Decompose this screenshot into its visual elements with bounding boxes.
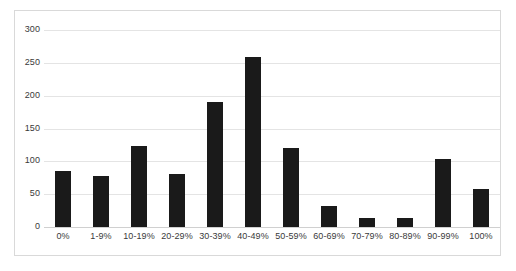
x-tick-label: 80-89%	[386, 231, 424, 242]
bar-slot	[310, 30, 348, 227]
bar-slot	[424, 30, 462, 227]
y-tick-label: 250	[4, 58, 40, 67]
bar[interactable]	[93, 176, 109, 227]
y-tick-label: 200	[4, 91, 40, 100]
bar[interactable]	[321, 206, 337, 227]
bar[interactable]	[169, 174, 185, 227]
bar-slot	[44, 30, 82, 227]
y-tick-label: 50	[4, 189, 40, 198]
bar[interactable]	[131, 146, 147, 227]
bar-chart: 050100150200250300 0%1-9%10-19%20-29%30-…	[0, 0, 516, 271]
y-axis: 050100150200250300	[0, 0, 40, 271]
x-tick-label: 20-29%	[158, 231, 196, 242]
x-axis: 0%1-9%10-19%20-29%30-39%40-49%50-59%60-6…	[44, 231, 500, 249]
bar-slot	[272, 30, 310, 227]
x-tick-label: 40-49%	[234, 231, 272, 242]
x-tick-label: 100%	[462, 231, 500, 242]
bar[interactable]	[245, 57, 261, 227]
gridline-0	[44, 227, 500, 228]
bar[interactable]	[207, 102, 223, 227]
x-tick-label: 60-69%	[310, 231, 348, 242]
bar-slot	[348, 30, 386, 227]
x-tick-label: 10-19%	[120, 231, 158, 242]
x-tick-label: 30-39%	[196, 231, 234, 242]
x-tick-label: 1-9%	[82, 231, 120, 242]
bar-slot	[234, 30, 272, 227]
y-tick-label: 150	[4, 124, 40, 133]
bar[interactable]	[359, 218, 375, 227]
plot-area	[44, 30, 500, 227]
x-tick-label: 70-79%	[348, 231, 386, 242]
x-tick-label: 50-59%	[272, 231, 310, 242]
x-tick-label: 0%	[44, 231, 82, 242]
bar[interactable]	[397, 218, 413, 227]
bar-slot	[82, 30, 120, 227]
y-tick-label: 300	[4, 25, 40, 34]
bar-slot	[120, 30, 158, 227]
x-tick-label: 90-99%	[424, 231, 462, 242]
bar-slot	[462, 30, 500, 227]
y-tick-label: 100	[4, 156, 40, 165]
bar[interactable]	[283, 148, 299, 227]
bar-slot	[196, 30, 234, 227]
bar[interactable]	[55, 171, 71, 227]
bar-slot	[158, 30, 196, 227]
y-tick-label: 0	[4, 222, 40, 231]
bar[interactable]	[435, 159, 451, 227]
bar[interactable]	[473, 189, 489, 227]
bar-slot	[386, 30, 424, 227]
